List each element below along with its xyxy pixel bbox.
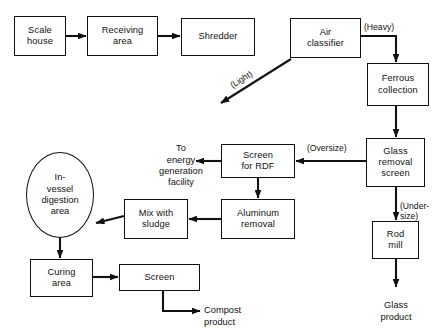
node-air-classifier[interactable]: Air classifier <box>290 18 361 58</box>
edge-label-heavy: (Heavy) <box>364 12 394 32</box>
node-in-vessel-digestion-area[interactable]: In- vessel digestion area <box>26 152 94 238</box>
node-receiving-area-label: Receiving area <box>102 25 144 48</box>
node-air-classifier-label: Air classifier <box>307 27 344 50</box>
node-receiving-area[interactable]: Receiving area <box>87 16 158 56</box>
node-aluminum-removal-label: Aluminum removal <box>237 208 279 231</box>
edge-air-classifier-to-ferrous-collection <box>361 36 396 62</box>
edge-label-undersize: (Under- size) <box>400 191 429 222</box>
edge-label-heavy-text: (Heavy) <box>364 22 394 32</box>
node-rod-mill[interactable]: Rod mill <box>372 221 419 259</box>
node-glass-removal-screen-label: Glass removal screen <box>379 146 413 180</box>
node-screen-for-rdf[interactable]: Screen for RDF <box>221 144 295 178</box>
node-mix-with-sludge-label: Mix with sludge <box>139 208 173 231</box>
node-scale-house-label: Scale house <box>27 25 53 48</box>
node-rod-mill-label: Rod mill <box>387 229 404 252</box>
node-curing-area-label: Curing area <box>48 267 76 290</box>
node-curing-area[interactable]: Curing area <box>30 259 93 297</box>
node-screen-for-rdf-label: Screen for RDF <box>241 150 274 173</box>
terminal-label-energy-generation-facility: To energy generation facility <box>152 132 210 188</box>
node-aluminum-removal[interactable]: Aluminum removal <box>221 199 295 239</box>
terminal-label-compost-product: Compost product <box>204 294 266 328</box>
edge-label-oversize: (Oversize) <box>307 133 347 153</box>
edge-label-oversize-text: (Oversize) <box>307 143 347 153</box>
node-screen[interactable]: Screen <box>119 264 200 291</box>
process-flow-diagram: Scale house Receiving area Shredder Air … <box>0 0 445 333</box>
edge-mix-with-sludge-to-in-vessel <box>96 216 124 223</box>
node-shredder[interactable]: Shredder <box>181 18 255 56</box>
node-screen-label: Screen <box>144 272 174 283</box>
node-mix-with-sludge[interactable]: Mix with sludge <box>124 199 188 239</box>
node-scale-house[interactable]: Scale house <box>14 16 66 56</box>
node-in-vessel-digestion-area-label: In- vessel digestion area <box>41 172 78 217</box>
terminal-label-glass-product: Glass product <box>367 289 425 323</box>
terminal-label-compost-product-text: Compost product <box>204 305 241 326</box>
terminal-label-energy-generation-facility-text: To energy generation facility <box>159 143 203 187</box>
terminal-label-glass-product-text: Glass product <box>380 300 411 321</box>
edge-screen-to-compost-product <box>163 291 200 311</box>
node-shredder-label: Shredder <box>198 31 237 42</box>
node-ferrous-collection-label: Ferrous collection <box>378 73 418 96</box>
node-ferrous-collection[interactable]: Ferrous collection <box>367 63 429 106</box>
edge-label-undersize-text: (Under- size) <box>400 201 429 221</box>
node-glass-removal-screen[interactable]: Glass removal screen <box>366 138 425 187</box>
